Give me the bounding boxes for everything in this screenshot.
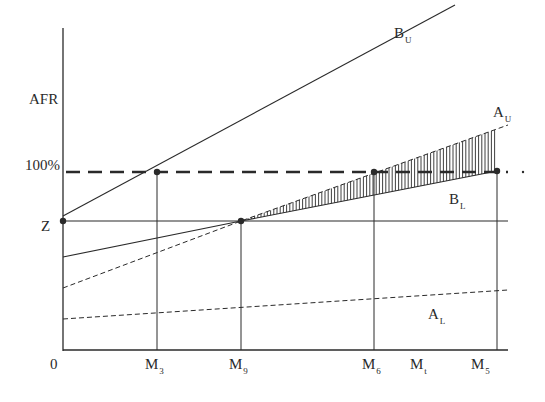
z-point-marker bbox=[60, 218, 66, 224]
m6-sub: 6 bbox=[376, 366, 381, 376]
b-lower-sub: L bbox=[460, 201, 466, 211]
a-lower-sub: L bbox=[440, 316, 446, 326]
m9-point-marker bbox=[238, 218, 244, 224]
a-lower-main: A bbox=[428, 306, 439, 322]
m5-tick-label: M5 bbox=[471, 357, 490, 376]
m9-main: M bbox=[229, 356, 242, 372]
b-lower-label: BL bbox=[449, 192, 466, 211]
a-upper-sub: U bbox=[505, 114, 512, 124]
a-lower-label: AL bbox=[428, 307, 445, 326]
m5-point-marker bbox=[494, 168, 500, 174]
z-label: Z bbox=[41, 219, 50, 234]
b-upper-label: BU bbox=[394, 26, 412, 45]
a-upper-label: AU bbox=[493, 105, 511, 124]
b-upper-main: B bbox=[394, 25, 404, 41]
mt-tick-label: Mt bbox=[410, 357, 427, 376]
m9-tick-label: M9 bbox=[229, 357, 248, 376]
origin-label: 0 bbox=[50, 357, 58, 372]
trailing-dot bbox=[522, 171, 524, 173]
b-upper-sub: U bbox=[405, 35, 412, 45]
m6-main: M bbox=[362, 356, 375, 372]
b-lower-main: B bbox=[449, 191, 459, 207]
m5-sub: 5 bbox=[485, 366, 490, 376]
m5-main: M bbox=[471, 356, 484, 372]
m6-point-marker bbox=[371, 169, 377, 175]
m3-main: M bbox=[145, 356, 158, 372]
a-upper-main: A bbox=[493, 104, 504, 120]
b-lower-line bbox=[63, 171, 497, 257]
m3-tick-label: M3 bbox=[145, 357, 164, 376]
a-upper-line bbox=[63, 125, 508, 288]
m9-sub: 9 bbox=[243, 366, 248, 376]
m3-sub: 3 bbox=[159, 366, 164, 376]
mt-sub: t bbox=[424, 366, 427, 376]
hundred-percent-label: 100% bbox=[25, 158, 60, 173]
mt-main: M bbox=[410, 356, 423, 372]
y-axis-label: AFR bbox=[29, 92, 58, 107]
m6-tick-label: M6 bbox=[362, 357, 381, 376]
m3-point-marker bbox=[154, 169, 160, 175]
